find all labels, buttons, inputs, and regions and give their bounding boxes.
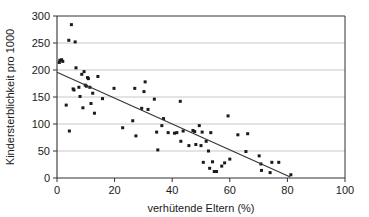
data-point (207, 150, 210, 153)
data-point (202, 161, 205, 164)
x-tick-label-80: 80 (281, 184, 293, 196)
y-tick-label-200: 200 (32, 64, 50, 76)
data-point (211, 160, 214, 163)
data-point (269, 171, 272, 174)
gridlines (57, 43, 345, 151)
data-points (58, 23, 293, 176)
regression-line (57, 72, 290, 177)
data-point (134, 134, 137, 137)
data-point (175, 131, 178, 134)
data-point (83, 70, 86, 73)
data-point (156, 148, 159, 151)
data-point (61, 60, 64, 63)
axis-tick-labels: 050100150200250300020406080100 (32, 10, 355, 196)
chart-canvas: 050100150200250300020406080100 verhütend… (0, 0, 369, 217)
data-point (200, 144, 203, 147)
data-point (277, 161, 280, 164)
data-point (79, 95, 82, 98)
data-point (121, 126, 124, 129)
data-point (205, 140, 208, 143)
data-point (289, 173, 292, 176)
data-point (80, 73, 83, 76)
trend-line (57, 72, 290, 177)
y-axis-title: Kindersterblichkeit pro 1000 (4, 29, 16, 165)
scatter-chart: 050100150200250300020406080100 verhütend… (0, 0, 369, 217)
data-point (96, 75, 99, 78)
data-point (194, 143, 197, 146)
data-point (133, 87, 136, 90)
data-point (246, 132, 249, 135)
x-axis-title: verhütende Eltern (%) (148, 202, 255, 214)
data-point (167, 131, 170, 134)
x-tick-label-20: 20 (108, 184, 120, 196)
data-point (223, 161, 226, 164)
data-point (153, 98, 156, 101)
data-point (198, 124, 201, 127)
x-tick-label-0: 0 (54, 184, 60, 196)
data-point (209, 131, 212, 134)
data-point (142, 90, 145, 93)
y-tick-label-250: 250 (32, 37, 50, 49)
data-point (155, 131, 158, 134)
x-tick-label-40: 40 (166, 184, 178, 196)
data-point (201, 131, 204, 134)
data-point (260, 169, 263, 172)
data-point (93, 112, 96, 115)
data-point (113, 87, 116, 90)
data-point (187, 144, 190, 147)
data-point (89, 102, 92, 105)
data-point (228, 158, 231, 161)
x-tick-label-100: 100 (336, 184, 354, 196)
data-point (131, 119, 134, 122)
data-point (87, 77, 90, 80)
data-point (72, 88, 75, 91)
y-tick-label-150: 150 (32, 91, 50, 103)
y-tick-label-100: 100 (32, 118, 50, 130)
data-point (258, 154, 261, 157)
data-point (182, 130, 185, 133)
axis-ticks (53, 16, 345, 182)
x-tick-label-60: 60 (224, 184, 236, 196)
data-point (236, 133, 239, 136)
data-point (208, 167, 211, 170)
data-point (193, 130, 196, 133)
data-point (244, 150, 247, 153)
data-point (227, 114, 230, 117)
y-tick-label-300: 300 (32, 10, 50, 22)
data-point (68, 130, 71, 133)
data-point (144, 80, 147, 83)
data-point (215, 170, 218, 173)
data-point (67, 39, 70, 42)
data-point (65, 104, 68, 107)
data-point (101, 97, 104, 100)
y-tick-label-0: 0 (44, 172, 50, 184)
data-point (179, 100, 182, 103)
data-point (75, 66, 78, 69)
data-point (179, 140, 182, 143)
data-point (70, 23, 73, 26)
data-point (91, 92, 94, 95)
data-point (74, 40, 77, 43)
data-point (160, 124, 163, 127)
data-point (77, 86, 80, 89)
y-tick-label-50: 50 (38, 145, 50, 157)
data-point (81, 106, 84, 109)
data-point (147, 108, 150, 111)
data-point (270, 161, 273, 164)
data-point (220, 165, 223, 168)
